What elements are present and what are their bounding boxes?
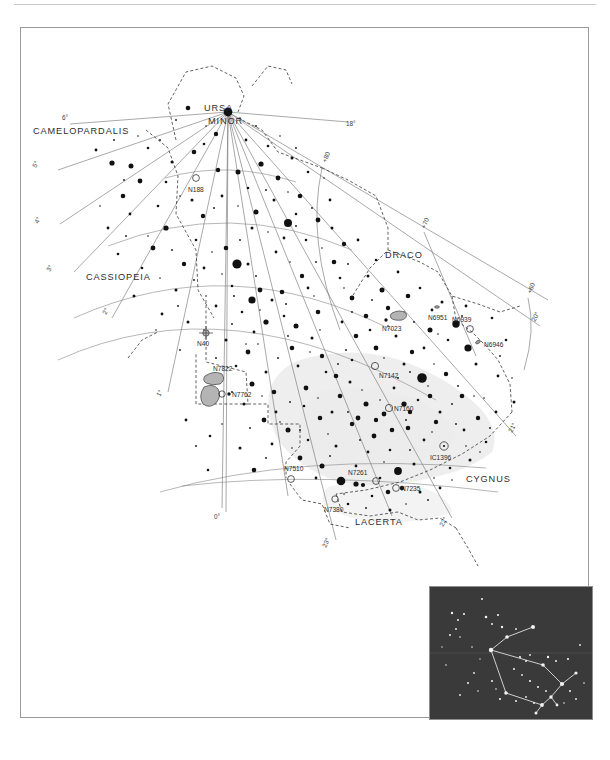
constellation-photo-inset xyxy=(429,586,593,720)
ra-label-21h: 21° xyxy=(507,421,518,433)
inset-constellation-lines xyxy=(491,627,576,713)
constellation-label-lacerta: LACERTA xyxy=(355,517,403,527)
object-label-n7380: N7380 xyxy=(324,506,344,513)
object-label-n7510: N7510 xyxy=(284,465,304,472)
ra-label-0h: 0° xyxy=(214,513,221,520)
ra-label-18h: 18° xyxy=(346,120,356,127)
constellation-label-ursa-minor-1: URSA xyxy=(204,103,233,113)
ra-label-4h: 4° xyxy=(33,215,42,224)
object-label-n7822: N7822 xyxy=(213,365,233,372)
object-label-n7142: N7142 xyxy=(379,372,399,379)
object-marker-n7023 xyxy=(384,311,406,322)
ra-label-6h: 6° xyxy=(62,114,69,121)
ra-label-23h: 23° xyxy=(321,536,332,548)
dec-label-plus70: +70 xyxy=(419,216,430,229)
constellation-label-cassiopeia: CASSIOPEIA xyxy=(86,272,151,282)
object-label-n6946: N6946 xyxy=(484,341,504,348)
constellation-label-draco: DRACO xyxy=(385,250,423,260)
object-label-n6951: N6951 xyxy=(428,314,448,321)
constellation-label-cygnus: CYGNUS xyxy=(466,474,511,484)
object-marker-n6946 xyxy=(475,339,481,344)
object-label-n7235: N7235 xyxy=(401,485,421,492)
constellation-label-camelopardalis: CAMELOPARDALIS xyxy=(33,126,129,136)
ra-label-20h: 20° xyxy=(530,310,541,322)
dec-label-plus80: +80 xyxy=(320,150,331,163)
constellation-label-ursa-minor-2: MINOR xyxy=(208,116,243,126)
object-label-n7261: N7261 xyxy=(348,469,368,476)
object-label-n188: N188 xyxy=(188,186,204,193)
object-label-n7023: N7023 xyxy=(382,325,402,332)
ra-label-1h: 1° xyxy=(155,388,164,397)
object-marker-n40 xyxy=(199,326,213,340)
ra-label-22h: 22° xyxy=(438,515,449,527)
object-marker-n7822 xyxy=(201,372,224,406)
object-label-ic1396: IC1396 xyxy=(430,454,452,461)
object-label-n6939: N6939 xyxy=(452,316,472,323)
object-marker-n7510 xyxy=(288,476,295,483)
ra-label-5h: 5° xyxy=(31,159,40,168)
object-label-n40: N40 xyxy=(197,340,209,347)
ra-label-3h: 3° xyxy=(45,263,54,272)
object-marker-n6951 xyxy=(435,306,440,309)
object-marker-n188 xyxy=(193,175,200,182)
object-label-n7160: N7160 xyxy=(394,405,414,412)
ra-label-2h: 2° xyxy=(101,306,110,315)
object-label-n7762: N7762 xyxy=(232,391,252,398)
